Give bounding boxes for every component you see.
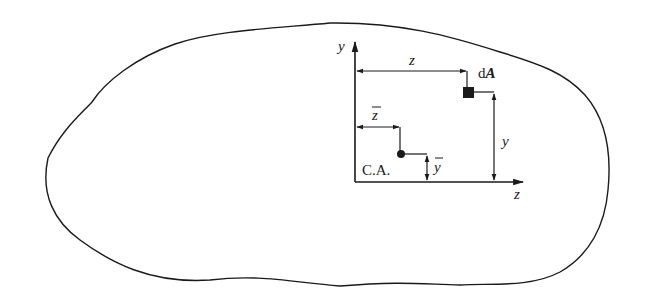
y-distance-label: y [500, 133, 509, 149]
section-outline [46, 23, 609, 286]
z-distance-label: z [408, 52, 415, 68]
area-element-label: dA [478, 65, 496, 81]
zbar-label: z [371, 107, 378, 123]
y-axis-label: y [336, 38, 345, 54]
area-element-da [463, 87, 474, 98]
cross-section-diagram: y z z dA y z C.A. y [0, 0, 645, 295]
ybar-label: y [432, 159, 441, 175]
z-axis-label: z [513, 186, 520, 202]
centroid-label: C.A. [362, 162, 390, 178]
